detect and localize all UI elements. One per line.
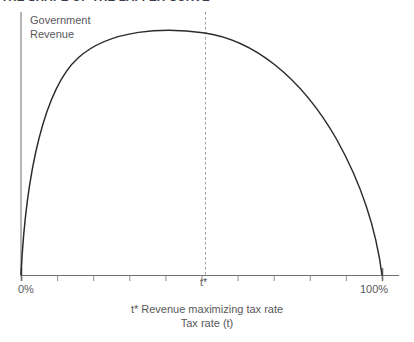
laffer-curve-path — [21, 30, 382, 275]
caption-line-2: Tax rate (t) — [0, 316, 414, 330]
laffer-curve-figure: THE SHAPE OF THE LAFFER CURVE Government — [0, 0, 414, 342]
y-axis-label-line2: Revenue — [30, 28, 91, 42]
x-tick-label-max: 100% — [360, 283, 388, 295]
chart-caption: t* Revenue maximizing tax rate Tax rate … — [0, 302, 414, 330]
tstar-axis-label: t* — [200, 276, 207, 288]
y-axis-label-line1: Government — [30, 14, 91, 28]
x-tick-label-min: 0% — [18, 283, 34, 295]
plot-area — [0, 0, 414, 342]
caption-line-1: t* Revenue maximizing tax rate — [0, 302, 414, 316]
y-axis-label: Government Revenue — [30, 14, 91, 41]
